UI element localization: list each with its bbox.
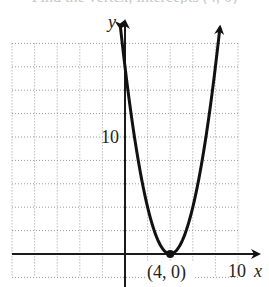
y-tick-10-label: 10 — [101, 127, 119, 147]
parabola-chart: y x 10 10 (4, 0) — [0, 0, 269, 287]
x-tick-10-label: 10 — [228, 261, 246, 281]
y-axis-label: y — [106, 12, 116, 32]
vertex-dot — [166, 250, 174, 258]
vertex-label: (4, 0) — [147, 262, 186, 283]
x-axis-label: x — [253, 261, 262, 281]
